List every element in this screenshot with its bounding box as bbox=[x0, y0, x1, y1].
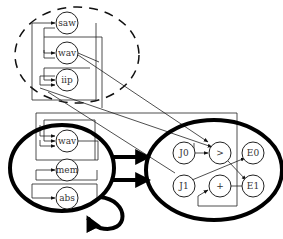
node-plus[interactable]: + bbox=[209, 175, 231, 197]
node-E1[interactable]: E1 bbox=[242, 175, 264, 197]
node-gt[interactable]: > bbox=[209, 142, 231, 164]
node-J0[interactable]: J0 bbox=[173, 142, 195, 164]
top-group-wires bbox=[32, 23, 102, 108]
node-saw-label: saw bbox=[58, 18, 76, 28]
node-J1-label: J1 bbox=[178, 181, 188, 191]
node-iip[interactable]: iip bbox=[56, 69, 78, 91]
node-mem-label: mem bbox=[56, 165, 79, 175]
right-group-boundary bbox=[146, 120, 282, 220]
node-wav-bottom-label: wav bbox=[58, 136, 77, 146]
node-saw[interactable]: saw bbox=[56, 12, 78, 34]
node-E1-label: E1 bbox=[247, 181, 259, 191]
node-wav-top-label: wav bbox=[58, 48, 77, 58]
node-abs-label: abs bbox=[59, 193, 75, 203]
node-E0-label: E0 bbox=[247, 148, 260, 158]
node-wav-top[interactable]: wav bbox=[56, 42, 78, 64]
node-plus-label: + bbox=[216, 181, 224, 191]
node-abs[interactable]: abs bbox=[56, 187, 78, 209]
node-J1[interactable]: J1 bbox=[173, 175, 195, 197]
node-mem[interactable]: mem bbox=[56, 159, 79, 181]
diagram-canvas: saw wav iip wav mem abs J0 > E0 J1 + bbox=[0, 0, 283, 239]
node-wav-bottom[interactable]: wav bbox=[56, 130, 78, 152]
node-E0[interactable]: E0 bbox=[242, 142, 264, 164]
node-J0-label: J0 bbox=[178, 148, 189, 158]
node-iip-label: iip bbox=[61, 75, 73, 85]
node-gt-label: > bbox=[216, 148, 224, 158]
